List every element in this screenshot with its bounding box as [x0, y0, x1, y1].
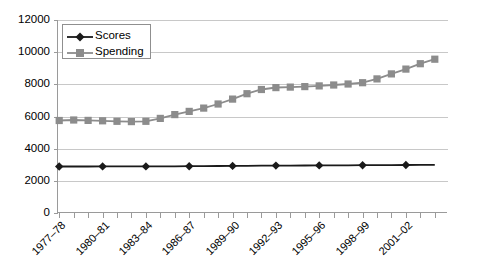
- line-chart: 020004000600080001000012000 1977–781980–…: [0, 0, 477, 280]
- data-point-spending: [388, 70, 395, 77]
- data-point-scores: [55, 162, 63, 170]
- data-point-scores: [315, 161, 323, 169]
- data-point-spending: [330, 81, 337, 88]
- data-point-scores: [98, 162, 106, 170]
- data-point-spending: [373, 75, 380, 82]
- legend-item-spending[interactable]: Spending: [67, 43, 150, 59]
- data-point-spending: [200, 105, 207, 112]
- spending-marker-icon: [67, 45, 93, 57]
- data-point-spending: [215, 100, 222, 107]
- data-point-spending: [99, 117, 106, 124]
- data-point-scores: [402, 161, 410, 169]
- data-point-spending: [345, 80, 352, 87]
- data-point-spending: [171, 111, 178, 118]
- data-point-spending: [157, 115, 164, 122]
- data-point-spending: [431, 56, 438, 63]
- data-point-spending: [128, 118, 135, 125]
- data-point-spending: [113, 118, 120, 125]
- data-point-spending: [316, 82, 323, 89]
- data-point-scores: [228, 162, 236, 170]
- data-point-scores: [358, 161, 366, 169]
- data-point-spending: [243, 90, 250, 97]
- data-point-spending: [417, 60, 424, 67]
- data-point-spending: [301, 83, 308, 90]
- data-point-scores: [185, 162, 193, 170]
- series-line-scores: [59, 165, 435, 167]
- legend: Scores Spending: [62, 24, 151, 59]
- data-point-spending: [359, 79, 366, 86]
- data-point-scores: [272, 161, 280, 169]
- legend-label-spending: Spending: [93, 45, 144, 57]
- data-point-spending: [70, 116, 77, 123]
- data-point-spending: [85, 117, 92, 124]
- data-point-spending: [287, 84, 294, 91]
- data-point-spending: [402, 66, 409, 73]
- data-point-spending: [186, 108, 193, 115]
- scores-marker-icon: [67, 29, 93, 41]
- data-point-spending: [272, 84, 279, 91]
- data-point-spending: [56, 117, 63, 124]
- data-point-spending: [142, 118, 149, 125]
- data-point-scores: [142, 162, 150, 170]
- legend-item-scores[interactable]: Scores: [67, 27, 150, 43]
- legend-label-scores: Scores: [93, 29, 131, 41]
- data-point-spending: [258, 86, 265, 93]
- data-point-spending: [229, 96, 236, 103]
